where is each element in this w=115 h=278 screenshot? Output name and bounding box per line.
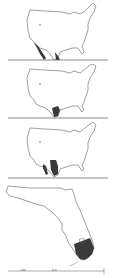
us-map-1: ✓ [0,0,115,64]
us-map-3 [0,122,115,182]
us-map-panel-3 [0,122,115,182]
scale-label-left: 100 [20,268,26,272]
us-map-panel-1: ✓ [0,0,115,64]
florida-map-panel: 100 0 0 [0,182,115,278]
florida-keys [70,262,78,266]
scale-label-mid: 0 0 [52,268,57,272]
florida-map: 100 0 0 [0,182,115,278]
us-map-2 [0,64,115,122]
us-map-panel-2 [0,64,115,122]
